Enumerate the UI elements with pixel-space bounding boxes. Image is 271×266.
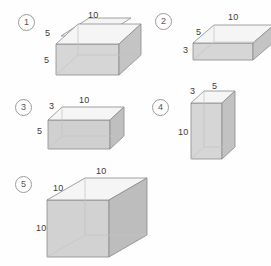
prism-1-front-face xyxy=(56,44,119,75)
prism-4-width-label: 5 xyxy=(212,81,217,91)
prism-5-depth-label: 10 xyxy=(53,183,63,193)
prism-4-box xyxy=(191,91,235,159)
marker-prism-2: 2 xyxy=(155,13,172,30)
prism-2-height-label: 3 xyxy=(183,45,188,55)
marker-prism-3: 3 xyxy=(15,99,32,116)
prism-4-depth-label: 3 xyxy=(190,86,195,96)
prism-3-depth-label: 3 xyxy=(49,101,54,111)
prism-2-width-label: 10 xyxy=(228,12,238,22)
prism-2-box xyxy=(193,25,271,60)
prism-3-height-label: 5 xyxy=(37,126,42,136)
prism-5-width-label: 10 xyxy=(96,166,106,176)
prism-4-side-face xyxy=(222,91,235,159)
prism-5-front-face xyxy=(47,200,109,257)
prism-1-width-label: 10 xyxy=(88,10,98,20)
prism-4-front-face xyxy=(191,103,222,159)
prism-2-depth-label: 5 xyxy=(196,27,201,37)
prism-3-front-face xyxy=(48,120,110,149)
marker-prism-5: 5 xyxy=(15,176,32,193)
prism-3-box xyxy=(48,107,124,149)
prism-1-height-label: 5 xyxy=(44,55,49,65)
marker-prism-4: 4 xyxy=(152,99,169,116)
prism-4-height-label: 10 xyxy=(178,127,188,137)
marker-prism-1: 1 xyxy=(18,14,35,31)
prism-5-height-label: 10 xyxy=(36,223,46,233)
prism-2-front-face xyxy=(193,43,253,60)
prism-1-depth-label: 5 xyxy=(45,28,50,38)
prism-3-width-label: 10 xyxy=(79,95,89,105)
